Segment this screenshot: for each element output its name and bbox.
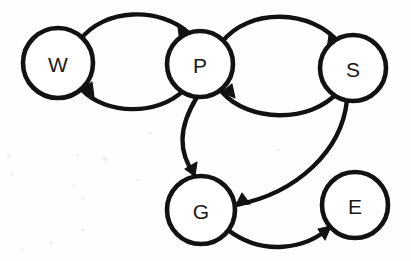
node-p[interactable]: P bbox=[167, 31, 233, 97]
node-g-label: G bbox=[193, 200, 209, 223]
edge-s-to-p bbox=[222, 84, 338, 115]
arrow-head-s-to-g bbox=[236, 193, 250, 205]
edge-p-to-g bbox=[182, 97, 197, 176]
node-e-label: E bbox=[348, 195, 362, 218]
edge-w-to-p bbox=[80, 14, 190, 42]
node-p-label: P bbox=[193, 54, 207, 77]
node-w-label: W bbox=[48, 53, 68, 76]
node-g[interactable]: G bbox=[167, 176, 235, 244]
node-e[interactable]: E bbox=[322, 172, 388, 238]
node-s-label: S bbox=[346, 58, 360, 81]
node-w[interactable]: W bbox=[23, 28, 93, 98]
graph-svg: W P S G E bbox=[0, 0, 411, 261]
edge-p-to-w bbox=[82, 82, 184, 109]
edge-g-to-e bbox=[228, 226, 331, 247]
edge-p-to-s bbox=[222, 17, 340, 50]
scan-noise bbox=[7, 131, 311, 251]
node-s[interactable]: S bbox=[320, 35, 386, 101]
diagram-canvas: W P S G E bbox=[0, 0, 411, 261]
